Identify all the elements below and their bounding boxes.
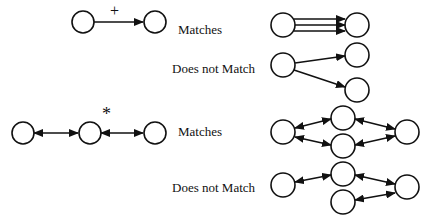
star-operator: * [102,104,111,125]
plus-no-match-example [271,43,369,102]
star-matches-label: Matches [178,124,222,140]
pattern-matching-diagram: + Matches Does not Match * Matches Does … [0,0,434,220]
star-no-match-example [271,162,419,214]
plus-no-match-label: Does not Match [172,61,255,77]
plus-operator: + [110,2,119,20]
plus-matches-example [271,13,369,37]
star-matches-example [271,106,419,158]
star-no-match-label: Does not Match [172,180,255,196]
plus-matches-label: Matches [178,22,222,38]
star-pattern [12,122,166,144]
